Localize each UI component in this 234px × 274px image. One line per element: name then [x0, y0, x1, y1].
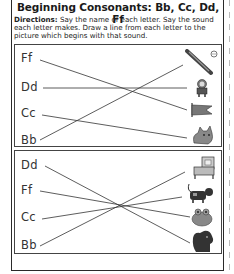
directions: Directions: Say the name of each letter.… — [14, 16, 222, 41]
letter-label: Cc — [21, 210, 36, 224]
cat-picture-icon — [190, 123, 216, 145]
doll-picture-icon — [192, 78, 212, 98]
letter-label: Ff — [21, 183, 32, 197]
page-edge — [229, 0, 230, 274]
letter-label: Bb — [21, 133, 37, 147]
letter-label: Cc — [21, 106, 36, 120]
letter-label: Bb — [21, 238, 37, 252]
dog-picture-icon — [190, 228, 216, 254]
flag-picture-icon — [190, 102, 214, 118]
frog-picture-icon — [190, 207, 214, 227]
bat-picture-icon — [185, 49, 221, 77]
cow-picture-icon — [185, 182, 215, 204]
bed-picture-icon — [192, 155, 216, 180]
letter-label: Ff — [21, 51, 32, 65]
letter-label: Dd — [21, 158, 38, 172]
letter-label: Dd — [21, 80, 38, 94]
